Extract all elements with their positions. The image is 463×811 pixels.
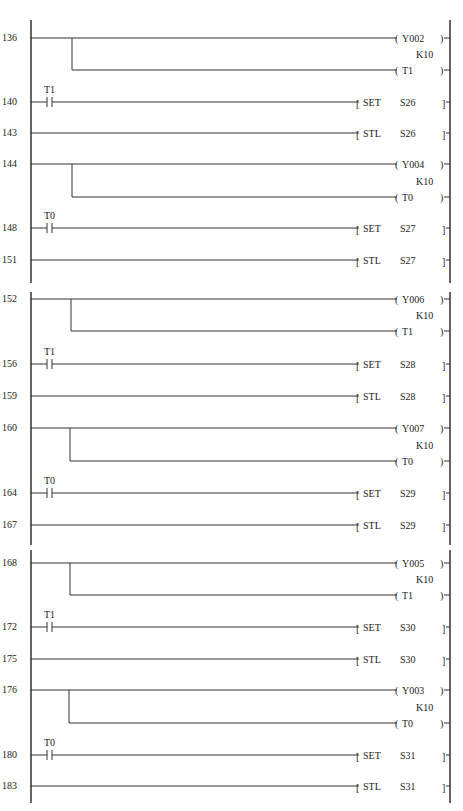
operand: S31	[400, 781, 416, 792]
coil-label: T1	[402, 326, 413, 337]
bracket-open-icon: [	[356, 392, 359, 403]
bracket-open-icon: [	[356, 129, 359, 140]
coil-label: T0	[402, 192, 413, 203]
coil-close-paren-icon: )	[440, 33, 443, 45]
step-number: 151	[2, 254, 17, 265]
step-number: 160	[2, 422, 17, 433]
coil-open-paren-icon: (	[395, 159, 399, 171]
coil-label: T0	[402, 718, 413, 729]
bracket-close-icon: ]	[442, 392, 445, 403]
coil-close-paren-icon: )	[440, 456, 443, 468]
step-number: 156	[2, 358, 17, 369]
operand: S27	[400, 223, 416, 234]
instruction: SET	[363, 622, 381, 633]
timer-preset: K10	[416, 574, 433, 585]
coil-open-paren-icon: (	[395, 326, 399, 338]
coil-close-paren-icon: )	[440, 192, 443, 204]
step-number: 144	[2, 158, 17, 169]
coil-open-paren-icon: (	[395, 558, 399, 570]
timer-preset: K10	[416, 440, 433, 451]
step-number: 148	[2, 222, 17, 233]
instruction: STL	[363, 654, 381, 665]
instruction: SET	[363, 97, 381, 108]
coil-label: Y005	[402, 558, 424, 569]
step-number: 164	[2, 487, 17, 498]
contact-label: T0	[44, 737, 55, 748]
bracket-open-icon: [	[356, 623, 359, 634]
timer-preset: K10	[416, 176, 433, 187]
bracket-close-icon: ]	[442, 98, 445, 109]
operand: S28	[400, 359, 416, 370]
step-number: 143	[2, 127, 17, 138]
coil-label: Y002	[402, 33, 424, 44]
coil-close-paren-icon: )	[440, 294, 443, 306]
coil-label: T1	[402, 65, 413, 76]
coil-close-paren-icon: )	[440, 590, 443, 602]
bracket-open-icon: [	[356, 521, 359, 532]
coil-label: T1	[402, 590, 413, 601]
operand: S26	[400, 128, 416, 139]
instruction: SET	[363, 750, 381, 761]
coil-label: T0	[402, 456, 413, 467]
timer-preset: K10	[416, 49, 433, 60]
bracket-close-icon: ]	[442, 360, 445, 371]
bracket-open-icon: [	[356, 655, 359, 666]
step-number: 136	[2, 32, 17, 43]
bracket-close-icon: ]	[442, 256, 445, 267]
coil-label: Y004	[402, 159, 424, 170]
instruction: STL	[363, 128, 381, 139]
bracket-close-icon: ]	[442, 489, 445, 500]
timer-preset: K10	[416, 702, 433, 713]
operand: S30	[400, 622, 416, 633]
bracket-open-icon: [	[356, 751, 359, 762]
step-number: 183	[2, 780, 17, 791]
instruction: STL	[363, 255, 381, 266]
step-number: 176	[2, 684, 17, 695]
coil-close-paren-icon: )	[440, 718, 443, 730]
bracket-close-icon: ]	[442, 623, 445, 634]
ladder-diagram: 136(Y002)(T1)K10140T1[SETS26]143[STLS26]…	[0, 0, 463, 811]
coil-open-paren-icon: (	[395, 718, 399, 730]
step-number: 152	[2, 293, 17, 304]
operand: S30	[400, 654, 416, 665]
operand: S31	[400, 750, 416, 761]
coil-open-paren-icon: (	[395, 590, 399, 602]
instruction: SET	[363, 359, 381, 370]
coil-open-paren-icon: (	[395, 65, 399, 77]
instruction: STL	[363, 520, 381, 531]
coil-open-paren-icon: (	[395, 192, 399, 204]
coil-open-paren-icon: (	[395, 456, 399, 468]
step-number: 140	[2, 96, 17, 107]
operand: S29	[400, 520, 416, 531]
bracket-open-icon: [	[356, 224, 359, 235]
coil-close-paren-icon: )	[440, 65, 443, 77]
contact-label: T0	[44, 210, 55, 221]
coil-open-paren-icon: (	[395, 294, 399, 306]
timer-preset: K10	[416, 310, 433, 321]
coil-open-paren-icon: (	[395, 33, 399, 45]
coil-close-paren-icon: )	[440, 326, 443, 338]
contact-label: T0	[44, 475, 55, 486]
coil-label: Y007	[402, 423, 424, 434]
bracket-close-icon: ]	[442, 782, 445, 793]
step-number: 172	[2, 621, 17, 632]
bracket-close-icon: ]	[442, 224, 445, 235]
coil-open-paren-icon: (	[395, 423, 399, 435]
bracket-open-icon: [	[356, 489, 359, 500]
bracket-close-icon: ]	[442, 751, 445, 762]
coil-close-paren-icon: )	[440, 685, 443, 697]
bracket-open-icon: [	[356, 360, 359, 371]
instruction: SET	[363, 223, 381, 234]
bracket-open-icon: [	[356, 98, 359, 109]
bracket-open-icon: [	[356, 782, 359, 793]
operand: S29	[400, 488, 416, 499]
step-number: 159	[2, 390, 17, 401]
operand: S28	[400, 391, 416, 402]
contact-label: T1	[44, 84, 55, 95]
contact-label: T1	[44, 346, 55, 357]
instruction: STL	[363, 391, 381, 402]
operand: S26	[400, 97, 416, 108]
coil-label: Y003	[402, 685, 424, 696]
coil-open-paren-icon: (	[395, 685, 399, 697]
instruction: STL	[363, 781, 381, 792]
